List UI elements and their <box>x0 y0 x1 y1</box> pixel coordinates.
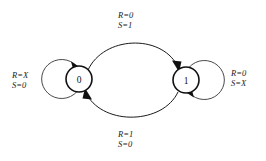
self-loop-state-1-label-line-2: S=X <box>231 78 246 88</box>
self-loop-state-0-label-line-1: R=X <box>12 70 28 80</box>
self-loop-state-1-label-line-1: R=0 <box>231 68 246 78</box>
transition-1-to-0-path <box>87 92 178 117</box>
transition-1-to-0-label-line-2: S=0 <box>118 139 133 149</box>
transition-0-to-1-label-line-1: R=0 <box>118 10 133 20</box>
state-diagram-canvas: 0 1 R=0 S=1 R=1 S=0 R=X S=0 R=0 S=X <box>0 0 266 161</box>
state-node-1-label: 1 <box>184 76 189 86</box>
transition-0-to-1-path <box>88 43 177 70</box>
transition-0-to-1-label-line-2: S=1 <box>118 20 133 30</box>
transition-0-to-1-label: R=0 S=1 <box>118 10 133 30</box>
transition-1-to-0-label: R=1 S=0 <box>118 129 133 149</box>
state-node-0-label: 0 <box>77 75 82 85</box>
self-loop-state-0-label: R=X S=0 <box>12 70 28 90</box>
transition-1-to-0-label-line-1: R=1 <box>118 129 133 139</box>
self-loop-state-0-label-line-2: S=0 <box>12 80 28 90</box>
self-loop-state-1-label: R=0 S=X <box>231 68 246 88</box>
